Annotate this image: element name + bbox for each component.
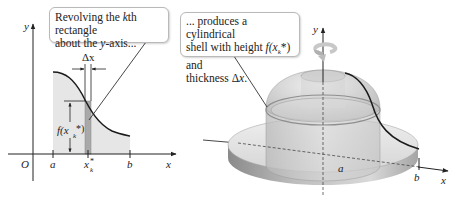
callout-text: thickness Δ <box>186 72 239 84</box>
x-axis-label-3d: x <box>440 174 446 186</box>
tick-a-label-3d: a <box>338 162 344 174</box>
delta-x-label: Δx <box>82 51 95 63</box>
callout-text: . <box>244 72 247 84</box>
callout-revolving: Revolving the kth rectangle about the y-… <box>49 7 169 43</box>
svg-text:*: * <box>90 157 94 166</box>
y-axis-label: y <box>23 20 29 32</box>
tick-b-label-3d: b <box>414 171 420 183</box>
callout-text: ... produces a cylindrical <box>186 15 247 40</box>
callout-text: shell with height <box>186 41 266 53</box>
callout-f: f(x <box>266 41 278 53</box>
tick-a-label: a <box>50 158 56 170</box>
tick-xk-label: x k * <box>83 157 94 174</box>
tick-b-label: b <box>127 158 133 170</box>
callout-text: Revolving the <box>55 11 123 23</box>
x-axis-label: x <box>165 158 171 170</box>
svg-text:f(x: f(x <box>57 124 69 137</box>
svg-text:k: k <box>90 166 94 174</box>
callout-pointer-left <box>89 42 146 120</box>
callout-text: about the <box>55 37 100 49</box>
svg-text:x: x <box>83 158 89 170</box>
y-axis-label-3d: y <box>312 23 318 35</box>
origin-label: O <box>21 158 29 170</box>
x-axis-3d <box>418 167 448 171</box>
region-under-curve <box>53 72 130 154</box>
callout-text: -axis... <box>105 37 136 49</box>
callout-cylindrical-shell: ... produces a cylindrical shell with he… <box>180 12 300 57</box>
svg-text:*): *) <box>76 123 84 135</box>
rotation-arrow-icon <box>315 44 335 62</box>
